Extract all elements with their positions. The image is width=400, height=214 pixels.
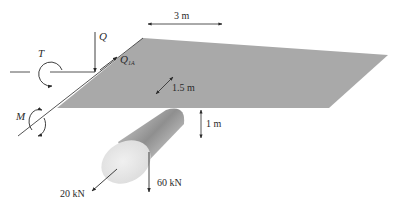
free-body-diagram: T Q Q1A M 3 m 1.5 m 1 m 60 kN 20 kN — [0, 0, 400, 214]
moment-arrow-icon-lower — [38, 118, 46, 136]
plate — [57, 38, 388, 108]
axial-load-label: 20 kN — [60, 188, 85, 199]
depth-dimension-label: 1.5 m — [172, 82, 195, 93]
shear-q-label: Q — [99, 30, 107, 42]
moment-label: M — [15, 110, 26, 122]
width-dimension-label: 3 m — [174, 10, 190, 21]
drop-dimension-label: 1 m — [206, 118, 222, 129]
vertical-load-label: 60 kN — [157, 177, 182, 188]
torque-label: T — [38, 47, 45, 59]
torque-arrow-icon — [39, 62, 62, 86]
moment-arrow-icon — [29, 109, 42, 130]
